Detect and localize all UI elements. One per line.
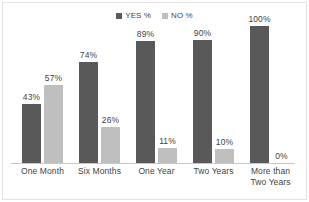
bar-value-label: 74% [80,50,97,60]
legend-item-yes[interactable]: YES % [116,11,151,20]
x-axis-label: One Month [14,166,71,177]
bar-rect[interactable] [101,127,120,163]
bar-no[interactable]: 10% [215,26,234,163]
x-axis-labels: One MonthSix MonthsOne YearTwo YearsMore… [14,166,299,200]
bar-value-label: 10% [216,137,233,147]
bar-yes[interactable]: 89% [136,26,155,163]
bar-chart: YES % NO % 43%57%74%26%89%11%90%10%100%0… [0,0,309,202]
bar-yes[interactable]: 90% [193,26,212,163]
x-axis-label-line: More than [242,166,299,177]
bar-group: 43%57% [22,26,63,163]
bar-value-label: 90% [194,28,211,38]
bar-value-label: 43% [23,92,40,102]
plot-area: 43%57%74%26%89%11%90%10%100%0% [14,26,299,163]
x-axis-label-line: One Year [128,166,185,177]
bar-rect[interactable] [136,41,155,163]
bar-value-label: 0% [275,151,288,161]
x-axis-label: Six Months [71,166,128,177]
bar-rect[interactable] [22,104,41,163]
bar-group: 74%26% [79,26,120,163]
bar-value-label: 100% [248,14,270,24]
square-marker-icon [162,13,168,19]
bar-yes[interactable]: 74% [79,26,98,163]
bar-rect[interactable] [44,85,63,163]
square-marker-icon [116,13,122,19]
legend-label-yes: YES % [125,11,151,20]
x-axis-label-line: Two Years [185,166,242,177]
x-axis-label: One Year [128,166,185,177]
bar-value-label: 89% [137,29,154,39]
x-axis-label-line: Two Years [242,177,299,188]
bar-value-label: 11% [159,136,176,146]
legend-item-no[interactable]: NO % [162,11,193,20]
bar-group: 89%11% [136,26,177,163]
bar-yes[interactable]: 43% [22,26,41,163]
bar-value-label: 57% [45,73,62,83]
x-axis-label-line: Six Months [71,166,128,177]
bar-rect[interactable] [250,26,269,163]
x-axis-label: More thanTwo Years [242,166,299,188]
bar-rect[interactable] [215,149,234,163]
bar-no[interactable]: 57% [44,26,63,163]
bar-rect[interactable] [79,62,98,163]
bar-rect[interactable] [158,148,177,163]
x-axis-label-line: One Month [14,166,71,177]
bar-group: 90%10% [193,26,234,163]
bar-value-label: 26% [102,115,119,125]
legend-label-no: NO % [171,11,193,20]
bar-group: 100%0% [250,26,291,163]
bar-no[interactable]: 0% [272,26,291,163]
bar-no[interactable]: 11% [158,26,177,163]
x-axis-line [11,163,295,164]
bar-no[interactable]: 26% [101,26,120,163]
x-axis-label: Two Years [185,166,242,177]
bar-rect[interactable] [193,40,212,163]
bar-yes[interactable]: 100% [250,26,269,163]
